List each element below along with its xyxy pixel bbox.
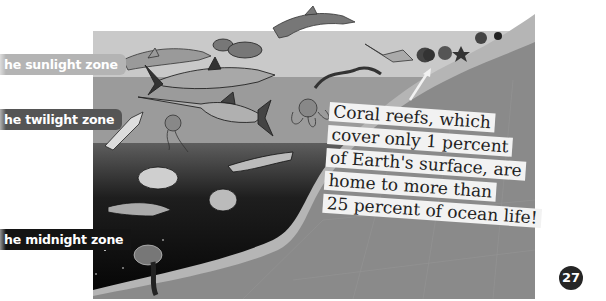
page-number-badge: 27 <box>559 266 583 290</box>
zone-label-midnight: he midnight zone <box>0 229 131 250</box>
zone-label-twilight: he twilight zone <box>0 109 122 130</box>
zone-label-sunlight: he sunlight zone <box>0 54 126 75</box>
coral-reef-caption: Coral reefs, which cover only 1 percent … <box>322 102 606 236</box>
